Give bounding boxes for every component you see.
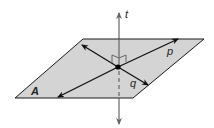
diagram: t p q A [0, 0, 214, 128]
label-t: t [125, 8, 129, 20]
intersection-point [115, 64, 120, 69]
label-p: p [166, 45, 173, 57]
label-plane-a: A [30, 85, 39, 97]
plane-a [15, 39, 204, 98]
label-q: q [130, 77, 137, 89]
